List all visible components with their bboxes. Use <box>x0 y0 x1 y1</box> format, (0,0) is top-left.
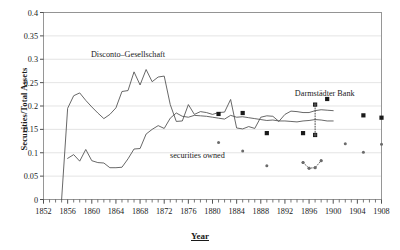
series-line <box>303 161 321 168</box>
y-tick-label: 0.2 <box>28 102 38 111</box>
x-tick-label: 1892 <box>277 207 293 216</box>
x-tick-label: 1884 <box>228 207 244 216</box>
y-tick-label: 0.3 <box>28 55 38 64</box>
x-tick-label: 1852 <box>35 207 51 216</box>
x-tick-label: 1880 <box>204 207 220 216</box>
y-axis-title: Securities/Total Assets <box>19 29 29 189</box>
data-point-square <box>216 112 220 116</box>
data-point-dot <box>314 134 317 137</box>
x-tick-label: 1860 <box>84 207 100 216</box>
x-tick-label: 1876 <box>180 207 196 216</box>
x-tick-label: 1856 <box>59 207 75 216</box>
y-tick-label: 0.4 <box>28 9 38 18</box>
x-tick-label: 1872 <box>156 207 172 216</box>
data-point-square <box>379 116 383 120</box>
data-point-square <box>241 111 245 115</box>
data-point-dot <box>344 142 347 145</box>
chart-canvas: 00.050.10.150.20.250.30.350.418521856186… <box>0 0 400 250</box>
data-point-dot <box>320 159 323 162</box>
securities-owned-label: securities owned <box>170 151 225 160</box>
data-point-dot <box>308 167 311 170</box>
data-point-dot <box>241 149 244 152</box>
disconto-gesellschaft-label: Disconto–Gesellschaft <box>91 50 166 59</box>
x-tick-label: 1888 <box>253 207 269 216</box>
data-point-dot <box>302 161 305 164</box>
x-tick-label: 1908 <box>373 207 389 216</box>
y-tick-label: 0.1 <box>28 149 38 158</box>
chart-figure: 00.050.10.150.20.250.30.350.418521856186… <box>0 0 400 250</box>
data-point-square <box>361 113 365 117</box>
x-tick-label: 1896 <box>301 207 317 216</box>
data-point-dot <box>314 166 317 169</box>
data-point-square <box>265 131 269 135</box>
data-point-dot <box>314 103 317 106</box>
data-point-square <box>301 131 305 135</box>
x-axis-title: Year <box>0 231 400 241</box>
data-point-dot <box>362 151 365 154</box>
y-tick-label: 0 <box>34 196 38 205</box>
data-point-dot <box>265 164 268 167</box>
series-line <box>62 70 334 200</box>
x-tick-label: 1868 <box>132 207 148 216</box>
x-tick-label: 1904 <box>349 207 365 216</box>
darmstadter-bank-label: Darmstädter Bank <box>295 89 356 98</box>
data-point-dot <box>217 141 220 144</box>
data-point-dot <box>380 143 383 146</box>
x-tick-label: 1900 <box>325 207 341 216</box>
x-tick-label: 1864 <box>108 207 124 216</box>
